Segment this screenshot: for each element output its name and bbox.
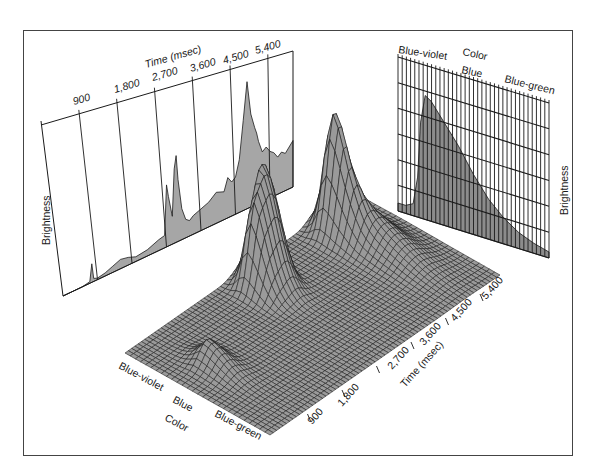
left-ylabel: Brightness — [40, 195, 52, 245]
right-ylabel: Brightness — [558, 165, 570, 215]
figure: 900 1,800 2,700 3,600 4,500 5,400 Time (… — [0, 0, 594, 474]
